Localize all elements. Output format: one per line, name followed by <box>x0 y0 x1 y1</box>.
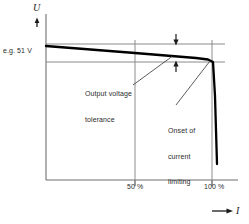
annotation-line: limiting <box>168 178 195 187</box>
x-tick-label-100: 100 % <box>204 183 224 192</box>
annotation-onset-of-current-limiting: Onset of current limiting <box>168 110 195 204</box>
x-axis-label: I <box>236 205 239 216</box>
y-axis-label: U <box>33 2 40 13</box>
annotation-line: current <box>168 153 195 162</box>
y-axis-value-annotation: e.g. 51 V <box>3 47 32 56</box>
annotation-output-voltage-tolerance: Output voltage tolerance <box>85 73 132 141</box>
annotation-line: tolerance <box>85 116 132 125</box>
annotation-line: Output voltage <box>85 90 132 99</box>
characteristic-curve-figure: U I e.g. 51 V Output voltage tolerance O… <box>0 0 249 224</box>
x-tick-label-50: 50 % <box>127 183 143 192</box>
annotation-line: Onset of <box>168 127 195 136</box>
